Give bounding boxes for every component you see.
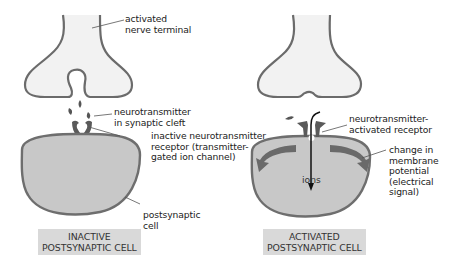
right-neurotransmitter	[285, 116, 294, 119]
label-neurotransmitter-in-cleft: neurotransmitter in synaptic cleft	[114, 107, 191, 128]
label-ions: ions	[302, 174, 321, 185]
label-activated-receptor: neurotransmitter- activated receptor	[349, 114, 432, 135]
caption-inactive-postsynaptic-cell: INACTIVE POSTSYNAPTIC CELL	[38, 229, 141, 255]
label-inactive-receptor: inactive neurotransmitter receptor (tran…	[151, 131, 266, 163]
label-postsynaptic-cell: postsynaptic cell	[143, 210, 200, 231]
left-nerve-terminal	[25, 15, 132, 97]
caption-activated-postsynaptic-cell: ACTIVATED POSTSYNAPTIC CELL	[263, 229, 366, 255]
left-neurotransmitters	[68, 100, 90, 119]
left-postsynaptic-cell	[22, 134, 140, 215]
label-change-in-membrane-potential: change in membrane potential (electrical…	[389, 145, 438, 198]
right-nerve-terminal	[258, 15, 361, 97]
label-activated-nerve-terminal: activated nerve terminal	[125, 14, 191, 35]
